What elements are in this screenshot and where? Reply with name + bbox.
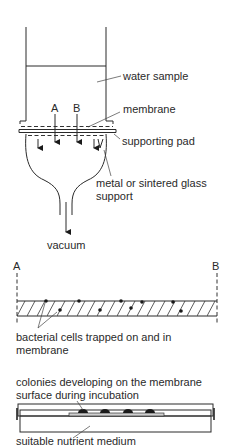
label-cells-line1: bacterial cells trapped on and in	[16, 331, 171, 343]
membrane-cross-section: A B bacterial cells trapped on and in me…	[13, 260, 219, 356]
label-colonies-line2: surface during incubation	[16, 389, 139, 401]
label-support-line2: support	[96, 190, 133, 202]
bacterial-cell	[98, 308, 102, 312]
label-colonies-line1: colonies developing on the membrane	[16, 376, 202, 388]
label-marker-a: A	[51, 102, 59, 114]
bacterial-cell	[140, 300, 144, 304]
filtration-apparatus: A B water sample membrane supporting pad…	[19, 27, 207, 251]
leader-membrane	[88, 112, 120, 127]
leader-support	[104, 150, 111, 176]
flow-arrows	[38, 139, 94, 148]
leader-water-sample	[97, 76, 121, 82]
label-section-a: A	[13, 260, 21, 272]
membrane-on-medium	[69, 413, 164, 416]
label-support-line1: metal or sintered glass	[96, 177, 207, 189]
label-marker-b: B	[73, 102, 80, 114]
label-cells-line2: membrane	[16, 344, 69, 356]
bacterial-cell	[58, 308, 62, 312]
bacterial-cell	[119, 299, 123, 303]
bacterial-cell	[44, 299, 48, 303]
leader-colonies	[77, 401, 83, 410]
label-water-sample: water sample	[122, 70, 188, 82]
membrane-hatch	[17, 301, 217, 316]
bacterial-cell	[171, 300, 175, 304]
bacterial-cell	[129, 306, 133, 310]
incubation-dish: colonies developing on the membrane surf…	[16, 376, 214, 447]
sample-cylinder	[20, 27, 113, 124]
leader-supporting-pad	[114, 134, 120, 139]
membrane-assembly	[19, 127, 116, 136]
label-vacuum: vacuum	[47, 239, 86, 251]
label-medium: suitable nutrient medium	[16, 435, 136, 447]
bacterial-cell	[77, 299, 81, 303]
label-section-b: B	[212, 260, 219, 272]
label-membrane: membrane	[123, 103, 176, 115]
bacterial-cell	[179, 309, 183, 313]
membrane-filtration-diagram: A B water sample membrane supporting pad…	[0, 0, 231, 448]
label-supporting-pad: supporting pad	[122, 135, 195, 147]
